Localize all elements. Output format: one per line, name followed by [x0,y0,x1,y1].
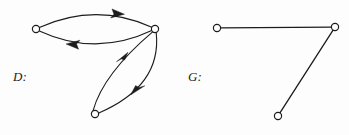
vertex-G-bottom [274,112,281,119]
edge-G-left-right [221,27,331,28]
vertex-G-right [331,23,338,30]
graph-canvas [0,0,349,135]
vertex-D-left [32,25,39,32]
arrowhead-right-to-bottom [131,86,145,95]
graph-figure: D: G: [0,0,349,135]
vertex-G-left [213,24,220,31]
edge-left-to-right-upper [39,15,152,28]
edge-right-to-left-lower [39,31,151,44]
graph-D [32,9,158,118]
vertex-D-bottom [91,110,98,117]
graph-G [213,23,338,119]
vertex-D-right [151,25,158,32]
graph-label-G: G: [188,69,202,85]
edge-G-right-bottom [280,30,333,112]
graph-label-D: D: [13,69,27,85]
edge-right-to-bottom-right-arc [98,33,156,114]
